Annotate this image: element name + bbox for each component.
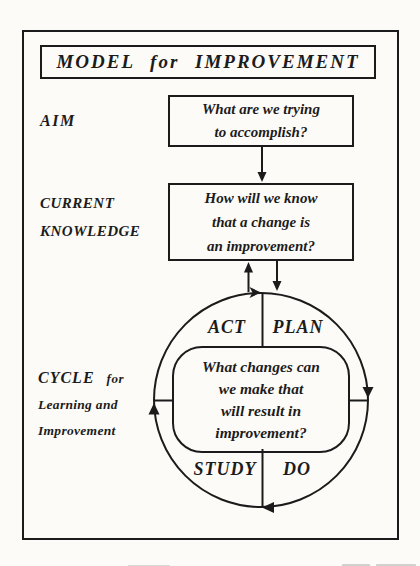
knowledge-question-box: How will we know that a change is an imp… — [168, 183, 354, 261]
aim-question-line-2: to accomplish? — [215, 121, 308, 144]
cropped-caption-remnant — [0, 558, 420, 566]
quadrant-act: ACT — [202, 317, 252, 338]
cycle-question-line-3: will result in — [221, 400, 301, 422]
cycle-label: CYCLEfor Learning and Improvement — [38, 369, 124, 444]
quadrant-do: DO — [276, 459, 318, 480]
cycle-label-line-3: Improvement — [38, 418, 124, 444]
current-knowledge-label: CURRENT KNOWLEDGE — [40, 189, 140, 245]
quadrant-study: STUDY — [186, 459, 264, 480]
cycle-label-line-1: CYCLEfor — [38, 369, 124, 387]
cycle-question-box: What changes can we make that will resul… — [172, 346, 350, 453]
knowledge-question-line-1: How will we know — [205, 186, 318, 210]
aim-question-box: What are we trying to accomplish? — [168, 95, 354, 147]
knowledge-question-line-2: that a change is — [212, 210, 310, 234]
current-knowledge-label-line-2: KNOWLEDGE — [40, 217, 140, 245]
cycle-label-word-suffix: for — [107, 371, 124, 386]
cycle-question-line-4: improvement? — [215, 422, 306, 444]
cycle-question-line-2: we make that — [219, 378, 303, 400]
knowledge-question-line-3: an improvement? — [207, 234, 315, 258]
cycle-label-line-2: Learning and — [38, 392, 124, 418]
current-knowledge-label-line-1: CURRENT — [40, 189, 140, 217]
aim-question-line-1: What are we trying — [202, 98, 320, 121]
aim-label: AIM — [40, 112, 76, 130]
cycle-label-word-main: CYCLE — [38, 369, 95, 386]
diagram-title: MODEL for IMPROVEMENT — [56, 51, 359, 73]
title-box: MODEL for IMPROVEMENT — [40, 45, 376, 79]
scanned-diagram-page: MODEL for IMPROVEMENT AIM What are we tr… — [0, 0, 420, 566]
quadrant-plan: PLAN — [271, 317, 325, 338]
cycle-question-line-1: What changes can — [202, 356, 320, 378]
